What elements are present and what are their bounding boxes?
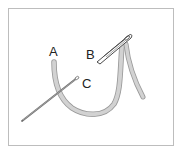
label-a: A — [49, 45, 58, 58]
label-b: B — [86, 48, 95, 61]
thread — [54, 44, 143, 114]
needle-thread-illustration — [0, 0, 184, 155]
label-c: C — [82, 77, 91, 90]
needle-c — [22, 76, 79, 121]
